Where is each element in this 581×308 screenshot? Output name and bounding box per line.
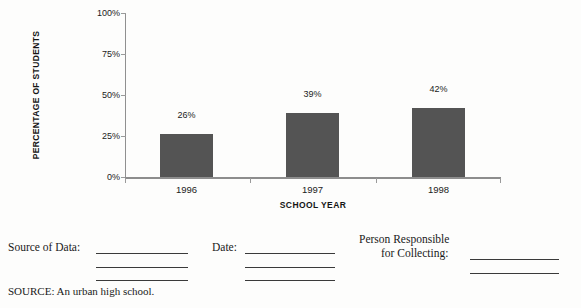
y-axis-title: PERCENTAGE OF STUDENTS — [31, 10, 41, 180]
y-tick-label-25: 25% — [86, 131, 120, 141]
bar-value-1998: 42% — [412, 84, 465, 94]
bar-1996 — [160, 134, 213, 177]
y-axis-tick-labels: 100% 75% 50% 25% 0% — [85, 0, 120, 185]
x-tick-mark-1 — [250, 178, 251, 183]
source-of-data-line-1[interactable] — [96, 253, 188, 254]
bar-value-1996: 26% — [160, 110, 213, 120]
x-category-label-1997: 1997 — [281, 184, 344, 195]
y-tick-label-75: 75% — [86, 49, 120, 59]
y-tick-label-100: 100% — [86, 8, 120, 18]
person-responsible-line-1[interactable] — [470, 259, 559, 260]
y-tick-mark-75 — [121, 54, 126, 55]
person-responsible-line-2[interactable] — [470, 273, 559, 274]
x-tick-mark-end — [500, 178, 501, 183]
source-of-data-line-3[interactable] — [96, 280, 188, 281]
x-axis-title: SCHOOL YEAR — [125, 200, 501, 210]
bar-1998 — [412, 108, 465, 177]
person-responsible-label-line1: Person Responsible — [359, 233, 449, 245]
bar-1997 — [286, 113, 339, 177]
date-line-1[interactable] — [245, 253, 335, 254]
data-collection-form: Source of Data: Date: Person Responsible… — [0, 215, 581, 308]
x-tick-mark-start — [125, 178, 126, 183]
x-category-label-1996: 1996 — [155, 184, 218, 195]
y-tick-label-50: 50% — [86, 90, 120, 100]
date-line-2[interactable] — [245, 267, 335, 268]
x-category-label-1998: 1998 — [407, 184, 470, 195]
bar-value-1997: 39% — [286, 89, 339, 99]
source-of-data-label: Source of Data: — [8, 241, 80, 253]
y-tick-mark-50 — [121, 95, 126, 96]
y-tick-mark-100 — [121, 13, 126, 14]
date-line-3[interactable] — [245, 280, 335, 281]
date-label: Date: — [212, 241, 237, 253]
source-note: SOURCE: An urban high school. — [8, 285, 154, 297]
x-axis-line — [125, 177, 501, 179]
person-responsible-label-line2: for Collecting: — [381, 247, 448, 259]
bar-chart: PERCENTAGE OF STUDENTS 100% 75% 50% 25% … — [0, 0, 581, 215]
x-tick-mark-2 — [376, 178, 377, 183]
source-of-data-line-2[interactable] — [96, 267, 188, 268]
y-tick-mark-25 — [121, 136, 126, 137]
y-tick-label-0: 0% — [86, 172, 120, 182]
